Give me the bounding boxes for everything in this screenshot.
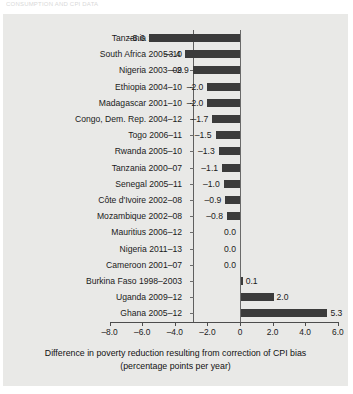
x-axis-tick (142, 322, 143, 326)
category-label: Ghana 2005–12 (3, 305, 186, 321)
bar (219, 147, 240, 155)
category-label: Côte d'Ivoire 2002–08 (3, 192, 186, 208)
bar-row: Mauritius 2006–120.0 (3, 224, 348, 240)
bar-value-label: –1.0 (198, 176, 220, 192)
bar-value-label: 5.3 (330, 305, 342, 321)
category-tick (190, 249, 194, 250)
bar-row: South Africa 2005–10–3.4 (3, 46, 348, 62)
bar (222, 164, 240, 172)
bar (216, 131, 240, 139)
x-axis-line (110, 322, 338, 323)
bar-row: Togo 2006–11–1.5 (3, 127, 348, 143)
x-axis-tick (207, 322, 208, 326)
bar (224, 180, 240, 188)
bar-value-label: –0.9 (199, 192, 221, 208)
bar-value-label: 2.0 (277, 289, 289, 305)
category-tick (190, 184, 194, 185)
category-label: Ethiopia 2004–10 (3, 79, 186, 95)
category-label: Togo 2006–11 (3, 127, 186, 143)
category-label: Burkina Faso 1998–2003 (3, 273, 186, 289)
x-axis-tick-label: 4.0 (299, 327, 311, 338)
category-tick (190, 297, 194, 298)
x-axis-tick-label: 6.0 (332, 327, 344, 338)
category-tick (190, 216, 194, 217)
category-label: Tanzania 2000–07 (3, 160, 186, 176)
x-axis-tick-label: –6.0 (134, 327, 150, 338)
bar-value-label: –3.4 (159, 46, 181, 62)
page-header-text: CONSUMPTION AND CPI DATA (6, 1, 216, 8)
bar-row: Cameroon 2001–070.0 (3, 257, 348, 273)
category-label: Madagascar 2001–10 (3, 95, 186, 111)
plot-area: Tanzania 2008–12–5.6South Africa 2005–10… (3, 14, 348, 386)
category-tick (190, 313, 194, 314)
x-axis-tick-label: –2.0 (199, 327, 215, 338)
category-label: Uganda 2009–12 (3, 289, 186, 305)
bar-value-label: –2.0 (181, 95, 203, 111)
bar-value-label: –2.9 (167, 62, 189, 78)
bar (185, 50, 240, 58)
figure-root: CONSUMPTION AND CPI DATA Tanzania 2008–1… (0, 0, 353, 394)
bar (225, 196, 240, 204)
x-axis-tick-label: –4.0 (167, 327, 183, 338)
bar-value-label: –1.7 (186, 111, 208, 127)
bar-value-label: –0.8 (201, 208, 223, 224)
bar (241, 277, 243, 285)
category-tick (190, 232, 194, 233)
x-axis-tick (338, 322, 339, 326)
category-label: Congo, Dem. Rep. 2004–12 (3, 111, 186, 127)
bar (227, 212, 240, 220)
category-tick (190, 200, 194, 201)
category-label: Mauritius 2006–12 (3, 224, 186, 240)
bar-value-label: 0.0 (214, 224, 236, 240)
bar (241, 293, 274, 301)
bar-row: Côte d'Ivoire 2002–08–0.9 (3, 192, 348, 208)
bar-row: Ethiopia 2004–10–2.0 (3, 79, 348, 95)
bar-row: Ghana 2005–125.3 (3, 305, 348, 321)
bar-value-label: –1.3 (193, 143, 215, 159)
bar (241, 309, 327, 317)
category-label: Nigeria 2011–13 (3, 241, 186, 257)
bar (212, 115, 240, 123)
bar-value-label: 0.0 (214, 257, 236, 273)
x-axis-tick-label: –8.0 (101, 327, 117, 338)
x-axis-tick (305, 322, 306, 326)
x-axis-tick-label: 0 (238, 327, 243, 338)
bar (193, 66, 240, 74)
bar-row: Nigeria 2003–09–2.9 (3, 62, 348, 78)
bar-row: Uganda 2009–122.0 (3, 289, 348, 305)
bar-row: Nigeria 2011–130.0 (3, 241, 348, 257)
bar (207, 83, 240, 91)
bar-value-label: –1.1 (196, 160, 218, 176)
category-tick (190, 281, 194, 282)
bar-value-label: 0.1 (246, 273, 258, 289)
x-axis-tick (240, 322, 241, 326)
category-label: Senegal 2005–11 (3, 176, 186, 192)
x-axis-tick (175, 322, 176, 326)
bar (207, 99, 240, 107)
caption-line-2: (percentage points per year) (11, 360, 340, 373)
bar-value-label: –5.6 (123, 30, 145, 46)
bar-row: Burkina Faso 1998–20030.1 (3, 273, 348, 289)
bar (149, 34, 240, 42)
category-label: Mozambique 2002–08 (3, 208, 186, 224)
bar-row: Tanzania 2008–12–5.6 (3, 30, 348, 46)
bar-value-label: 0.0 (214, 241, 236, 257)
bar-row: Rwanda 2005–10–1.3 (3, 143, 348, 159)
category-tick (190, 265, 194, 266)
bar-row: Madagascar 2001–10–2.0 (3, 95, 348, 111)
x-axis-tick (273, 322, 274, 326)
x-axis-tick-label: 2.0 (267, 327, 279, 338)
bar-row: Congo, Dem. Rep. 2004–12–1.7 (3, 111, 348, 127)
bar-value-label: –1.5 (190, 127, 212, 143)
bar-row: Tanzania 2000–07–1.1 (3, 160, 348, 176)
caption-line-1: Difference in poverty reduction resultin… (11, 347, 340, 360)
x-axis-tick (110, 322, 111, 326)
category-label: Rwanda 2005–10 (3, 143, 186, 159)
bar-row: Mozambique 2002–08–0.8 (3, 208, 348, 224)
bar-value-label: –2.0 (181, 79, 203, 95)
chart-caption: Difference in poverty reduction resultin… (11, 347, 340, 372)
category-label: Nigeria 2003–09 (3, 62, 186, 78)
category-label: Cameroon 2001–07 (3, 257, 186, 273)
category-tick (190, 168, 194, 169)
bar-row: Senegal 2005–11–1.0 (3, 176, 348, 192)
